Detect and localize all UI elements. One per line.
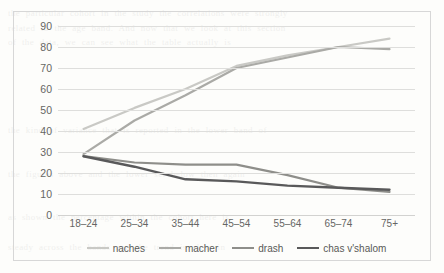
- y-axis-tick-label: 70: [40, 62, 52, 74]
- legend-swatch: [159, 247, 181, 249]
- x-axis-tick-label: 45–54: [211, 218, 262, 234]
- y-axis-tick-label: 80: [40, 41, 52, 53]
- series-line-macher: [84, 47, 390, 154]
- legend-item[interactable]: macher: [159, 243, 218, 254]
- y-axis-tick-label: 30: [40, 146, 52, 158]
- plot-area: 0102030405060708090: [58, 26, 415, 215]
- legend-label: chas v'shalom: [323, 243, 386, 254]
- y-axis-tick-label: 90: [40, 20, 52, 32]
- y-axis-tick-label: 10: [40, 188, 52, 200]
- y-axis-tick-label: 40: [40, 125, 52, 137]
- legend-item[interactable]: drash: [232, 243, 283, 254]
- gridline: [58, 152, 415, 153]
- y-axis-tick-label: 60: [40, 83, 52, 95]
- legend-item[interactable]: naches: [87, 243, 145, 254]
- y-axis-tick-label: 50: [40, 104, 52, 116]
- chart-figure: 0102030405060708090 18–2425–3435–4445–54…: [13, 11, 431, 261]
- gridline: [58, 47, 415, 48]
- x-axis-tick-label: 35–44: [160, 218, 211, 234]
- x-axis-tick-label: 55–64: [262, 218, 313, 234]
- legend-label: macher: [185, 243, 218, 254]
- gridline: [58, 26, 415, 27]
- gridline: [58, 131, 415, 132]
- x-axis-tick-labels: 18–2425–3435–4445–5455–6465–7475+: [58, 218, 415, 234]
- gridline: [58, 215, 415, 216]
- legend-swatch: [297, 247, 319, 249]
- gridline: [58, 194, 415, 195]
- legend-swatch: [87, 247, 109, 249]
- legend-label: naches: [113, 243, 145, 254]
- legend-item[interactable]: chas v'shalom: [297, 243, 386, 254]
- x-axis-tick-label: 75+: [364, 218, 415, 234]
- x-axis-tick-label: 18–24: [58, 218, 109, 234]
- legend-label: drash: [258, 243, 283, 254]
- series-lines: [58, 26, 415, 215]
- gridline: [58, 68, 415, 69]
- gridline: [58, 110, 415, 111]
- series-line-drash: [84, 156, 390, 192]
- x-axis-tick-label: 65–74: [313, 218, 364, 234]
- x-axis-tick-label: 25–34: [109, 218, 160, 234]
- gridline: [58, 89, 415, 90]
- y-axis-tick-label: 0: [46, 209, 52, 221]
- gridline: [58, 173, 415, 174]
- legend-swatch: [232, 247, 254, 249]
- series-line-naches: [84, 39, 390, 129]
- y-axis-tick-label: 20: [40, 167, 52, 179]
- chart-legend: nachesmacherdrashchas v'shalom: [58, 240, 415, 256]
